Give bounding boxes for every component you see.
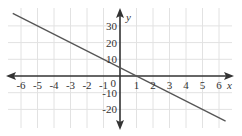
x-tick-label: 1: [134, 79, 140, 91]
y-tick-label: 10: [106, 53, 118, 65]
x-tick-label: 6: [216, 79, 222, 91]
x-tick-label: -2: [82, 79, 91, 91]
y-tick-label: -10: [102, 87, 117, 99]
y-axis-label: y: [125, 11, 131, 23]
x-tick-label: 4: [183, 79, 189, 91]
x-tick-label: 5: [200, 79, 206, 91]
series-line: [13, 13, 226, 121]
y-tick-label: 30: [106, 20, 118, 32]
y-tick-label: -20: [102, 103, 117, 115]
x-tick-label: 2: [150, 79, 156, 91]
x-tick-label: -4: [49, 79, 59, 91]
x-tick-label: -5: [33, 79, 43, 91]
data-series: [13, 13, 226, 121]
x-axis-label: x: [226, 79, 232, 91]
tick-labels: -6-5-4-3-2-10123456-20-10102030xy: [16, 11, 232, 115]
x-tick-label: 3: [167, 79, 173, 91]
line-graph: -6-5-4-3-2-10123456-20-10102030xy: [0, 0, 242, 136]
x-tick-label: -6: [16, 79, 26, 91]
x-tick-label: -3: [66, 79, 76, 91]
y-tick-label: 20: [106, 37, 118, 49]
